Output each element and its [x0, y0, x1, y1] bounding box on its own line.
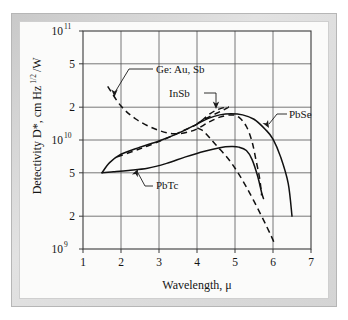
svg-text:10: 10: [52, 243, 64, 255]
y-axis-title-text: Detectivity D*, cm Hz: [30, 86, 44, 195]
leader-line-pbse: [269, 114, 287, 124]
leader-line-ge-au-sb: [115, 69, 154, 93]
y-tick-label: 109: [52, 240, 69, 255]
y-tick-labels: 109251010251011: [52, 22, 76, 255]
y-axis-title-exponent: 1/2: [29, 74, 38, 84]
y-axis-title: Detectivity D*, cm Hz1/2/W: [29, 57, 44, 195]
curve-label-pbtc: PbTc: [156, 179, 179, 191]
y-tick-label: 2: [69, 101, 75, 113]
curve-label-insb: InSb: [169, 87, 190, 99]
svg-text:11: 11: [64, 22, 71, 31]
x-axis-title: Wavelength, μ: [162, 278, 231, 292]
arrowhead-ge-au-sb: [111, 90, 117, 98]
curve-label-ge-au-sb: Ge: Au, Sb: [156, 63, 205, 75]
svg-text:10: 10: [52, 134, 64, 146]
detectivity-chart: 1234567 109251010251011 Ge: Au, SbInSbPb…: [19, 21, 329, 299]
svg-text:10: 10: [52, 25, 64, 37]
x-tick-label: 7: [308, 256, 314, 268]
x-tick-label: 6: [270, 256, 276, 268]
curve-insb: [117, 107, 275, 245]
annotation-leaders: [111, 69, 287, 186]
y-tick-label: 1011: [52, 22, 72, 37]
y-tick-label: 5: [69, 167, 75, 179]
figure-frame: 1234567 109251010251011 Ge: Au, SbInSbPb…: [12, 14, 336, 306]
leader-line-pbtc: [138, 173, 153, 186]
curve-ge-au-sb: [108, 86, 262, 195]
y-tick-label: 2: [69, 210, 75, 222]
curve-label-pbse: PbSe: [289, 108, 312, 120]
x-tick-label: 5: [232, 256, 238, 268]
svg-text:9: 9: [64, 240, 68, 249]
svg-text:10: 10: [64, 131, 72, 140]
x-tick-label: 2: [118, 256, 124, 268]
figure-canvas: 1234567 109251010251011 Ge: Au, SbInSbPb…: [19, 21, 329, 299]
x-tick-label: 4: [194, 256, 200, 268]
x-tick-labels: 1234567: [80, 256, 314, 268]
curve-labels: Ge: Au, SbInSbPbSePbTc: [156, 63, 312, 191]
y-tick-label: 5: [69, 58, 75, 70]
x-tick-label: 3: [156, 256, 162, 268]
y-tick-label: 1010: [52, 131, 72, 146]
y-axis-title-tail: /W: [30, 57, 44, 72]
x-tick-label: 1: [80, 256, 86, 268]
